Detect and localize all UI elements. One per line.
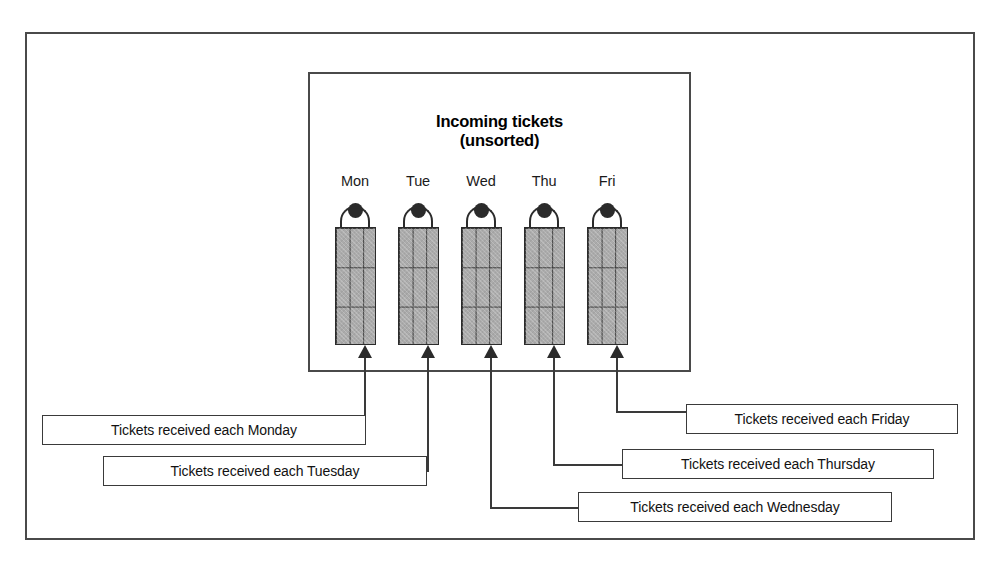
arrowhead-thu <box>547 345 561 358</box>
bag-texture-wed <box>462 228 501 344</box>
leader-fri-vertical <box>616 358 618 413</box>
leader-wed-horizontal <box>490 507 580 509</box>
callout-thursday[interactable]: Tickets received each Thursday <box>622 449 934 479</box>
day-label-mon: Mon <box>325 173 385 189</box>
leader-thu-vertical <box>553 358 555 466</box>
ticket-bag-fri[interactable] <box>587 227 628 345</box>
leader-thu-horizontal <box>553 464 624 466</box>
ticket-bag-mon[interactable] <box>335 227 376 345</box>
callout-monday[interactable]: Tickets received each Monday <box>42 415 366 445</box>
title-line-1: Incoming tickets <box>436 112 563 130</box>
callout-wednesday[interactable]: Tickets received each Wednesday <box>578 492 892 522</box>
callout-friday[interactable]: Tickets received each Friday <box>686 404 958 434</box>
arrowhead-wed <box>484 345 498 358</box>
day-label-wed: Wed <box>451 173 511 189</box>
arrowhead-tue <box>421 345 435 358</box>
callout-tuesday[interactable]: Tickets received each Tuesday <box>103 456 427 486</box>
ticket-bag-thu[interactable] <box>524 227 565 345</box>
day-label-fri: Fri <box>577 173 637 189</box>
bag-texture-thu <box>525 228 564 344</box>
bag-texture-mon <box>336 228 375 344</box>
ticket-bag-wed[interactable] <box>461 227 502 345</box>
diagram-canvas: Incoming tickets (unsorted) Mon Tue Wed … <box>0 0 1005 564</box>
bag-texture-tue <box>399 228 438 344</box>
bag-texture-fri <box>588 228 627 344</box>
leader-tue-vertical <box>427 358 429 471</box>
arrowhead-mon <box>358 345 372 358</box>
day-label-tue: Tue <box>388 173 448 189</box>
day-label-thu: Thu <box>514 173 574 189</box>
page-title: Incoming tickets (unsorted) <box>308 112 691 151</box>
ticket-bag-tue[interactable] <box>398 227 439 345</box>
leader-fri-horizontal <box>616 411 688 413</box>
arrowhead-fri <box>610 345 624 358</box>
title-line-2: (unsorted) <box>308 131 691 150</box>
leader-wed-vertical <box>490 358 492 509</box>
